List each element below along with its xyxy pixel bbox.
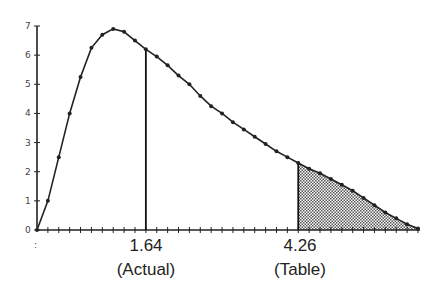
actual-value-label: 1.64	[129, 236, 162, 255]
actual-caption-label: (Actual)	[117, 260, 176, 279]
svg-text:0: 0	[25, 225, 31, 235]
table-caption-label: (Table)	[274, 260, 326, 279]
f-distribution-chart: 01234567 : 1.64 (Actual) 4.26 (Table)	[0, 0, 438, 304]
svg-text:2: 2	[25, 167, 31, 177]
origin-mark: :	[34, 240, 37, 250]
reference-lines	[146, 49, 298, 230]
svg-text:1: 1	[25, 196, 31, 206]
table-value-label: 4.26	[283, 236, 316, 255]
svg-text:5: 5	[25, 79, 31, 89]
svg-text:6: 6	[25, 50, 31, 60]
svg-text:4: 4	[25, 108, 31, 118]
svg-text:7: 7	[25, 21, 31, 31]
svg-text:3: 3	[25, 138, 31, 148]
